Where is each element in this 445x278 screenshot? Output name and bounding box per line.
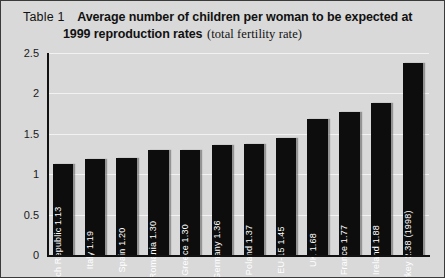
bar-value-label: UK 1.68	[308, 233, 318, 267]
title-line-1: Table 1 Average number of children per w…	[23, 8, 432, 25]
bar: Romania 1.30	[148, 150, 168, 255]
bar: Italy 1.19	[85, 159, 105, 255]
y-axis-tick-label: 2.5	[24, 47, 39, 59]
bar: UK 1.68	[307, 119, 327, 255]
bar: Turkey 2.38 (1998)	[403, 63, 423, 255]
bar: Germany 1.36	[212, 145, 232, 255]
x-axis-line	[47, 255, 430, 257]
bar-value-label: Czech Republic 1.13	[53, 207, 63, 278]
y-axis-line	[47, 53, 49, 256]
bar: France 1.77	[339, 112, 359, 255]
bar-value-label: Turkey 2.38 (1998)	[403, 210, 413, 278]
y-axis-tick-label: 2	[33, 87, 39, 99]
bar-value-label: EU-15 1.45	[276, 226, 286, 274]
figure-container: Table 1 Average number of children per w…	[0, 0, 445, 278]
table-number-label: Table 1	[23, 10, 65, 24]
bar-value-label: France 1.77	[339, 225, 349, 275]
bar-value-label: Poland 1.37	[244, 225, 254, 275]
y-axis-tick-label: 0	[33, 249, 39, 261]
bar: EU-15 1.45	[276, 138, 296, 255]
bar-value-label: Greece 1.30	[180, 224, 190, 276]
y-axis-tick-label: 0.5	[24, 209, 39, 221]
bar: Spain 1.20	[116, 158, 136, 255]
bar-value-label: Germany 1.36	[212, 220, 222, 278]
title-text-line-1: Average number of children per woman to …	[77, 10, 412, 24]
bar: Ireland 1.88	[371, 103, 391, 255]
y-axis-tick-label: 1	[33, 168, 39, 180]
bars-group: Czech Republic 1.13Italy 1.19Spain 1.20R…	[47, 53, 429, 255]
title-text-line-2: 1999 reproduction rates	[63, 27, 202, 41]
title-subtitle-parenthetical: (total fertility rate)	[207, 27, 302, 41]
y-axis-tick-label: 1.5	[24, 128, 39, 140]
bar-value-label: Italy 1.19	[85, 231, 95, 270]
chart-plot-wrapper: 00.511.522.5 Czech Republic 1.13Italy 1.…	[1, 53, 445, 268]
bar-value-label: Ireland 1.88	[371, 225, 381, 275]
title-block: Table 1 Average number of children per w…	[23, 8, 432, 42]
bar-value-label: Spain 1.20	[117, 227, 127, 272]
bar-value-label: Romania 1.30	[148, 221, 158, 278]
plot-area: Czech Republic 1.13Italy 1.19Spain 1.20R…	[47, 53, 429, 255]
bar: Czech Republic 1.13	[53, 164, 73, 255]
bar: Poland 1.37	[244, 144, 264, 255]
y-axis-tick-labels: 00.511.522.5	[1, 53, 45, 255]
bar: Greece 1.30	[180, 150, 200, 255]
title-line-2: 1999 reproduction rates (total fertility…	[63, 25, 432, 42]
